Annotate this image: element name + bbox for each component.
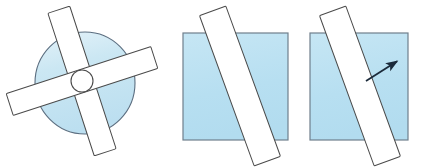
figure-svg <box>0 0 423 167</box>
panel-disc-with-cross-bars <box>6 6 158 156</box>
figure-canvas <box>0 0 423 167</box>
disc-hub-icon <box>71 70 93 92</box>
panel-square-with-slit-and-arrow <box>310 6 408 166</box>
panel-square-with-slit <box>183 6 288 166</box>
